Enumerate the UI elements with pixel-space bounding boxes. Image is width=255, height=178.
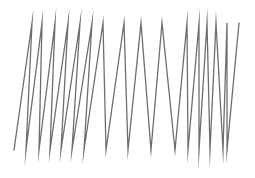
zigzag-diagram (0, 0, 255, 178)
zigzag-line (14, 23, 239, 150)
